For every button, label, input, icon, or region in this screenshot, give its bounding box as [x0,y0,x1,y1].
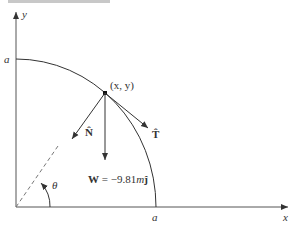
normal-label: N̂ [85,126,93,138]
theta-label: θ [52,179,58,191]
tangent-vector [105,93,148,128]
a-label-x: a [152,211,158,223]
a-label-y: a [4,53,10,65]
theta-arc [41,183,50,207]
y-axis-label: y [21,8,27,20]
weight-label: W = −9.81mĵ [88,173,148,185]
quarter-circle-diagram: y x a a (x, y) N̂ T̂ θ W = −9.81mĵ [0,0,299,231]
x-axis-label: x [282,211,288,223]
radius-dashed-line [16,146,58,207]
tangent-label: T̂ [152,128,160,140]
point-label: (x, y) [110,79,134,92]
